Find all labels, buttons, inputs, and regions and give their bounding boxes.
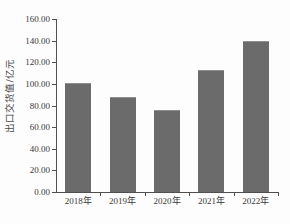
bar (243, 41, 269, 192)
y-axis-tick-mark (52, 192, 56, 193)
x-axis-tick-label: 2018年 (65, 197, 92, 206)
y-axis-tick-label: 120.00 (25, 58, 50, 67)
y-axis-tick-label: 100.00 (25, 79, 50, 88)
y-axis-tick-label: 60.00 (30, 123, 50, 132)
y-axis-tick-mark (52, 62, 56, 63)
y-axis-tick-mark (52, 170, 56, 171)
y-axis-title: 出口交货值/亿元 (0, 0, 18, 192)
y-axis-tick-label: 80.00 (30, 101, 50, 110)
x-axis-tick-mark (234, 192, 235, 196)
y-axis-tick-label: 20.00 (30, 166, 50, 175)
y-axis-tick-label: 140.00 (25, 36, 50, 45)
bar (198, 70, 224, 192)
x-axis-tick-mark (189, 192, 190, 196)
y-axis-tick-mark (52, 149, 56, 150)
y-axis-line (56, 19, 57, 192)
y-axis-tick-mark (52, 127, 56, 128)
x-axis-line (56, 192, 278, 193)
bar-chart-figure: 出口交货值/亿元 0.0020.0040.0060.0080.00100.001… (0, 0, 290, 224)
y-axis-title-label: 出口交货值/亿元 (2, 59, 16, 134)
x-axis-tick-mark (145, 192, 146, 196)
x-axis-tick-mark (278, 192, 279, 196)
bar (65, 83, 91, 192)
y-axis-tick-label: 0.00 (34, 188, 50, 197)
bar (110, 97, 136, 192)
y-axis-tick-mark (52, 84, 56, 85)
y-axis-tick-label: 160.00 (25, 15, 50, 24)
x-axis-tick-label: 2021年 (198, 197, 225, 206)
plot-area: 0.0020.0040.0060.0080.00100.00120.00140.… (56, 19, 278, 192)
x-axis-tick-label: 2022年 (242, 197, 269, 206)
x-axis-tick-mark (100, 192, 101, 196)
bar (154, 110, 180, 192)
y-axis-tick-mark (52, 41, 56, 42)
y-axis-tick-mark (52, 106, 56, 107)
y-axis-tick-label: 40.00 (30, 144, 50, 153)
x-axis-tick-label: 2019年 (109, 197, 136, 206)
x-axis-tick-label: 2020年 (154, 197, 181, 206)
y-axis-tick-mark (52, 19, 56, 20)
